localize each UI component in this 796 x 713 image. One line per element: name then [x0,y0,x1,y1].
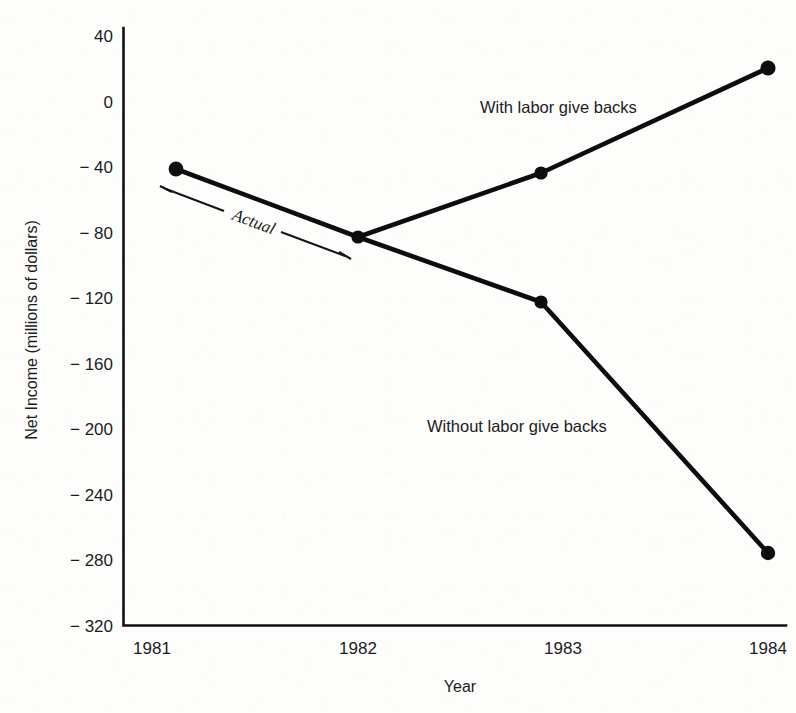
series-without-line [358,237,768,553]
y-tick-label-n280: − 280 [70,551,113,570]
series-without-point-1984 [761,546,775,560]
actual-bracket-right-cap [339,252,351,259]
y-tick-label-n200: − 200 [70,420,113,439]
y-tick-label-n320: − 320 [70,617,113,636]
x-axis-title: Year [444,678,477,695]
line-chart-canvas: 40 0 − 40 − 80 − 120 − 160 − 200 − 240 −… [0,0,796,713]
x-tick-label-1981: 1981 [133,639,171,658]
y-tick-label-n80: − 80 [79,224,113,243]
y-tick-label-0: 0 [104,93,113,112]
actual-annotation-label: Actual [229,205,278,239]
x-tick-label-1983: 1983 [544,639,582,658]
series-actual-point-1981 [169,162,184,177]
actual-bracket-right-rule [281,232,345,256]
y-tick-label-n40: − 40 [79,158,113,177]
series-without-point-1983 [534,295,547,308]
x-tick-label-1982: 1982 [339,639,377,658]
axis-lines [124,28,787,626]
actual-bracket-left-rule [166,189,224,211]
series-without-labor-give-backs [358,237,775,560]
series-with-line [358,68,768,237]
series-label-with-labor-give-backs: With labor give backs [480,98,637,116]
series-actual-point-1982 [351,230,364,243]
y-axis-tick-labels: 40 0 − 40 − 80 − 120 − 160 − 200 − 240 −… [70,27,113,636]
y-tick-label-n120: − 120 [70,289,113,308]
x-axis-tick-labels: 1981 1982 1983 1984 [133,639,787,658]
y-tick-label-n240: − 240 [70,486,113,505]
series-label-without-labor-give-backs: Without labor give backs [427,417,607,435]
y-axis-title: Net Income (millions of dollars) [23,220,40,440]
y-tick-label-n160: − 160 [70,355,113,374]
y-tick-label-40: 40 [94,27,113,46]
x-tick-label-1984: 1984 [749,639,787,658]
series-with-point-1984 [760,60,775,75]
axes-group [124,28,787,626]
series-with-labor-give-backs [358,60,776,237]
chart-figure: 40 0 − 40 − 80 − 120 − 160 − 200 − 240 −… [0,0,796,713]
series-with-point-1983 [534,166,547,179]
